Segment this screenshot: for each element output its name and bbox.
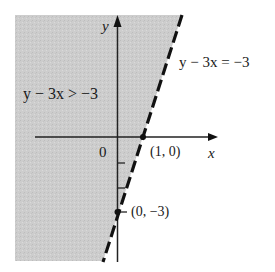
point-label-0-minus-3: (0, −3) [131,205,169,219]
x-axis-label: x [208,146,215,161]
inequality-label: y − 3x > −3 [23,86,98,102]
x-axis-arrow-icon [208,133,218,141]
boundary-equation-label: y − 3x = −3 [179,55,249,70]
inequality-graph [0,0,275,272]
point-1-0 [140,134,146,140]
point-label-1-0: (1, 0) [150,145,180,159]
y-axis-label: y [102,19,109,34]
shaded-region [15,15,182,261]
origin-label: 0 [99,145,107,160]
point-0-minus-3 [115,209,121,215]
